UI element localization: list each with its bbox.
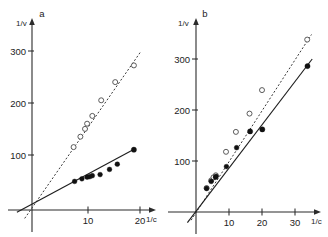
panel-b-label: b xyxy=(202,8,207,19)
panel-a-ytick-300: 300 xyxy=(10,46,26,57)
data-point xyxy=(72,179,77,184)
panel-a-xtick-10: 10 xyxy=(83,215,94,226)
panel-b-ytick-300: 300 xyxy=(174,54,190,65)
data-point xyxy=(98,172,103,177)
data-point xyxy=(233,129,238,134)
data-point xyxy=(305,37,310,42)
panel-a-ytick-100: 100 xyxy=(10,150,26,161)
data-point xyxy=(260,127,265,132)
panel-b-xtick-30: 30 xyxy=(290,217,301,228)
data-point xyxy=(115,162,120,167)
panel-a-fitline-dashed xyxy=(25,51,142,218)
panel-b-y-axis-label: 1/v xyxy=(178,19,189,28)
panel-a-ytick-200: 200 xyxy=(10,98,26,109)
panel-a-xtick-20: 20 xyxy=(135,215,146,226)
panel-a-y-ticks: 100 200 300 xyxy=(10,46,34,161)
panel-b-x-axis-label: 1/c xyxy=(311,217,322,226)
figure-container: a 1/v 1/c 100 200 300 xyxy=(0,0,328,237)
data-point xyxy=(214,174,219,179)
data-point xyxy=(85,121,90,126)
panel-a-x-axis-label: 1/c xyxy=(146,215,157,224)
panel-b-series-open-points xyxy=(204,37,310,190)
panel-a-y-axis xyxy=(29,18,35,232)
panel-b-x-ticks: 10 20 30 xyxy=(224,209,301,229)
data-point xyxy=(90,113,95,118)
panel-b-y-axis-arrow xyxy=(193,18,199,25)
data-point xyxy=(71,145,76,150)
panel-b-svg: b 1/v 1/c 100 200 300 xyxy=(164,0,328,237)
panel-b-fitline-dashed xyxy=(191,35,311,221)
panel-b-xtick-20: 20 xyxy=(257,217,268,228)
panel-b-x-axis xyxy=(168,209,321,215)
data-point xyxy=(204,186,209,191)
panel-a-x-axis xyxy=(8,207,156,213)
panel-a-y-axis-label: 1/v xyxy=(16,19,27,28)
data-point xyxy=(78,134,83,139)
chart-panel-a: a 1/v 1/c 100 200 300 xyxy=(0,0,164,237)
data-point xyxy=(83,126,88,131)
panel-b-ytick-200: 200 xyxy=(174,105,190,116)
data-point xyxy=(234,145,239,150)
data-point xyxy=(305,64,310,69)
data-point xyxy=(247,111,252,116)
panel-b-x-axis-arrow xyxy=(314,209,321,215)
panel-b-ytick-100: 100 xyxy=(174,156,190,167)
data-point xyxy=(224,149,229,154)
panel-a-label: a xyxy=(39,8,45,19)
data-point xyxy=(113,80,118,85)
data-point xyxy=(131,147,136,152)
data-point xyxy=(131,63,136,68)
data-point xyxy=(99,98,104,103)
panel-b-y-ticks: 100 200 300 xyxy=(174,54,198,167)
data-point xyxy=(209,179,214,184)
panel-a-svg: a 1/v 1/c 100 200 300 xyxy=(0,0,164,237)
data-point xyxy=(80,176,85,181)
data-point xyxy=(248,129,253,134)
panel-a-x-ticks: 10 20 xyxy=(83,207,146,227)
panel-b-fitline-solid xyxy=(187,59,312,223)
chart-panel-b: b 1/v 1/c 100 200 300 xyxy=(164,0,328,237)
panel-b-xtick-10: 10 xyxy=(224,217,235,228)
panel-a-x-axis-arrow xyxy=(149,207,156,213)
data-point xyxy=(90,173,95,178)
panel-a-y-axis-arrow xyxy=(29,18,35,25)
data-point xyxy=(107,167,112,172)
data-point xyxy=(224,164,229,169)
panel-a-series-open-points xyxy=(71,63,136,150)
data-point xyxy=(260,88,265,93)
panel-b-y-axis xyxy=(193,18,199,234)
